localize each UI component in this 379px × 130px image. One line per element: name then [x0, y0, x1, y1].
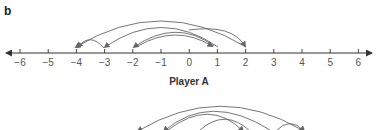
tick-label: 1: [215, 57, 221, 68]
tick-labels: −6−5−4−3−2−10123456: [14, 57, 361, 68]
tick-label: −6: [14, 57, 26, 68]
arc-to-2: [189, 29, 245, 46]
ticks: [20, 49, 358, 53]
arc-b-3: [168, 114, 243, 130]
tick-label: −4: [71, 57, 83, 68]
arc-b-inner: [200, 119, 250, 130]
arcs: [76, 21, 246, 48]
tick-label: 3: [271, 57, 277, 68]
number-line-a: −6−5−4−3−2−10123456 Player A: [6, 21, 372, 87]
arc-1-to-neg3: [105, 28, 218, 48]
tick-label: 6: [356, 57, 362, 68]
tick-label: −3: [99, 57, 111, 68]
tick-label: −1: [155, 57, 167, 68]
arc-1-to-neg2: [134, 32, 214, 47]
arc-b-outer: [138, 106, 302, 130]
tick-label: −5: [42, 57, 54, 68]
tick-label: 2: [243, 57, 249, 68]
number-line-diagram: −6−5−4−3−2−10123456 Player A: [0, 0, 379, 130]
number-line-b-arcs: [138, 106, 304, 130]
tick-label: −2: [127, 57, 139, 68]
axis-title-player-a: Player A: [169, 76, 209, 87]
tick-label: 5: [327, 57, 333, 68]
tick-label: 0: [186, 57, 192, 68]
tick-label: 4: [299, 57, 305, 68]
